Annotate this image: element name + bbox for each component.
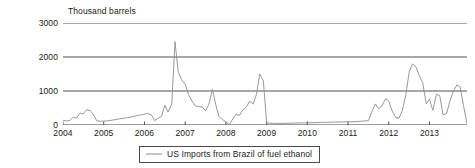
x-axis-tick-marks [63, 122, 430, 126]
plot-area [63, 23, 467, 125]
x-axis-tick-label: 2010 [289, 128, 325, 138]
x-axis-tick-label: 2007 [167, 128, 203, 138]
x-axis-tick-label: 2006 [126, 128, 162, 138]
x-axis-tick-label: 2005 [86, 128, 122, 138]
x-axis-tick-label: 2012 [371, 128, 407, 138]
x-axis-tick-label: 2009 [249, 128, 285, 138]
y-axis-tick-label: 1000 [28, 86, 58, 96]
y-axis-unit-label: Thousand barrels [68, 6, 136, 16]
x-axis-tick-label: 2013 [412, 128, 448, 138]
y-axis-tick-label: 3000 [28, 18, 58, 28]
x-axis-tick-label: 2008 [208, 128, 244, 138]
y-axis-tick-label: 2000 [28, 52, 58, 62]
x-axis-tick-label: 2004 [45, 128, 81, 138]
chart-container: Thousand barrels 0100020003000 200420052… [0, 0, 475, 168]
x-axis-tick-label: 2011 [330, 128, 366, 138]
chart-legend: US Imports from Brazil of fuel ethanol [139, 146, 320, 163]
legend-label: US Imports from Brazil of fuel ethanol [167, 149, 312, 159]
data-series-line [63, 42, 467, 125]
chart-svg [63, 23, 467, 125]
legend-line-swatch [146, 151, 162, 157]
gridlines [63, 23, 467, 91]
